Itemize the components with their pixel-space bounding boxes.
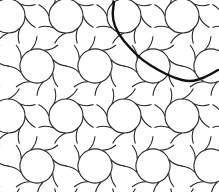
tiling-pattern-canvas xyxy=(0,0,219,192)
background xyxy=(0,0,219,192)
